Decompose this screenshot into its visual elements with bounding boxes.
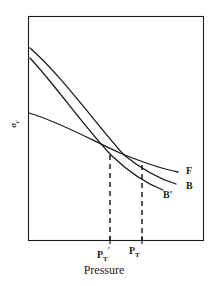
x-tick-label-pt-prime: PT′	[97, 246, 110, 263]
curve-b	[30, 48, 176, 184]
curve-label-b: B	[186, 181, 193, 191]
x-tick-label-pt: PT	[129, 246, 140, 259]
x-axis-title: Pressure	[84, 264, 125, 276]
x-tick-label-pt-prime-prime: ′	[108, 245, 110, 256]
figure-container: σc F B B′ PT′ PT Pressure	[0, 0, 215, 286]
curve-b-prime	[30, 58, 163, 190]
curve-label-b-prime: B′	[163, 190, 172, 200]
plot-canvas	[0, 0, 215, 286]
x-tick-label-pt-sub: T	[135, 251, 140, 259]
curve-f	[29, 113, 178, 172]
plot-frame	[29, 17, 204, 241]
y-axis-label: σc	[8, 104, 20, 144]
y-axis-label-subscript: c	[14, 120, 20, 123]
y-axis-label-wrapper: σc	[4, 104, 30, 144]
y-axis-label-symbol: σ	[8, 123, 18, 128]
curve-label-f: F	[186, 166, 192, 176]
